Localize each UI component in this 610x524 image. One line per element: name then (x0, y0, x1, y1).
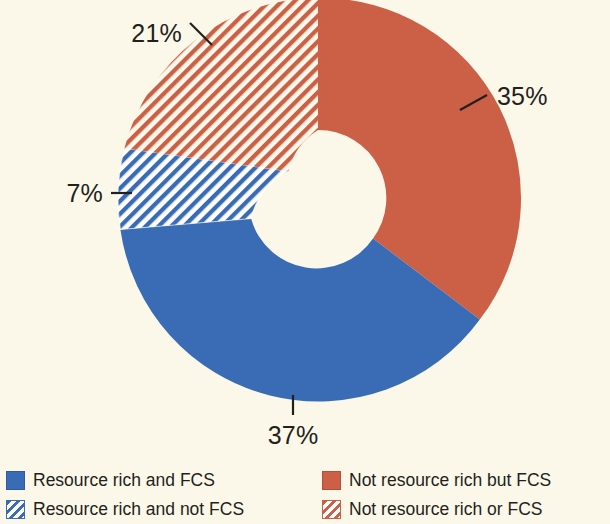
pct-label-37: 37% (268, 421, 319, 449)
donut-chart-figure: 35% 37% 7% 21% Resource rich and FCS Not… (0, 0, 610, 524)
legend-item-not-resource-rich-or-fcs[interactable]: Not resource rich or FCS (320, 500, 610, 519)
pct-label-21: 21% (131, 19, 182, 47)
red-solid-swatch-icon (322, 471, 341, 490)
legend-item-resource-rich-and-not-fcs[interactable]: Resource rich and not FCS (0, 500, 320, 519)
legend-item-not-resource-rich-but-fcs[interactable]: Not resource rich but FCS (320, 471, 610, 490)
red-hatch-swatch-icon (322, 500, 341, 519)
blue-hatch-swatch-icon (6, 500, 25, 519)
chart-legend: Resource rich and FCS Not resource rich … (0, 466, 610, 524)
legend-item-resource-rich-and-fcs[interactable]: Resource rich and FCS (0, 471, 320, 490)
donut-chart-svg: 35% 37% 7% 21% (0, 0, 610, 460)
legend-label: Resource rich and not FCS (33, 501, 244, 519)
blue-solid-swatch-icon (6, 471, 25, 490)
legend-label: Not resource rich or FCS (349, 501, 543, 519)
pct-label-7: 7% (66, 179, 103, 207)
legend-label: Not resource rich but FCS (349, 472, 551, 490)
pct-label-35: 35% (497, 82, 548, 110)
legend-label: Resource rich and FCS (33, 472, 215, 490)
